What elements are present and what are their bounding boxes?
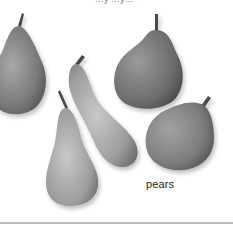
bottom-divider <box>0 222 233 224</box>
pears-photo <box>0 0 233 222</box>
pear-top-right <box>114 14 183 109</box>
pear-top-left <box>0 13 46 114</box>
caption-label: pears <box>146 178 174 190</box>
